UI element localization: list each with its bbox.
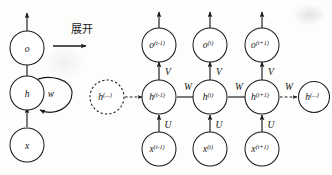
weight-W-t-plus-1: W (285, 82, 294, 92)
diagram-canvas: x h o w 展开 h(...) (0, 0, 332, 175)
unfold-arrow-label: 展开 (71, 23, 93, 36)
timestep-column-t: x(t) h(t) o(t) U V W (193, 12, 250, 166)
weight-V-t-plus-1: V (268, 67, 275, 77)
timestep-column-t-plus-1: x(t+1) h(t+1) o(t+1) U V W (245, 12, 294, 166)
weight-V-t: V (216, 67, 223, 77)
unfold-arrow-group: 展开 (53, 23, 93, 46)
node-x-label: x (24, 141, 30, 151)
weight-U-t-minus-1: U (165, 120, 173, 130)
weight-W-t: W (235, 82, 244, 92)
rnn-unfold-diagram: x h o w 展开 h(...) (0, 0, 332, 175)
folded-network: x h o w (10, 13, 72, 162)
timestep-column-t-minus-1: x(t-1) h(t-1) o(t-1) U V W (142, 12, 199, 166)
self-loop-weight-label: w (48, 89, 55, 99)
weight-V-t-minus-1: V (165, 67, 172, 77)
weight-U-t-plus-1: U (268, 120, 276, 130)
unfolded-network: h(...) x(t-1) h(t-1) o (90, 12, 330, 166)
weight-W-t-minus-1: W (184, 82, 193, 92)
node-h-label: h (25, 89, 30, 99)
node-o-label: o (25, 44, 30, 54)
weight-U-t: U (216, 120, 224, 130)
